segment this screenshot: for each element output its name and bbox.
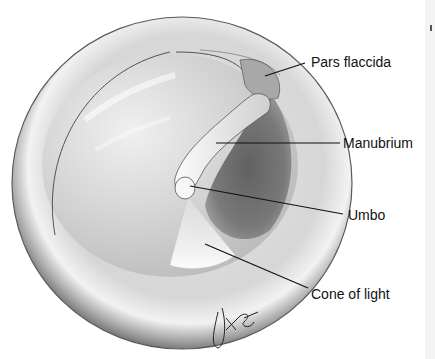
label-pars-flaccida: Pars flaccida [311,55,391,69]
umbo-shape [175,177,195,199]
label-umbo: Umbo [348,208,385,222]
label-cone-of-light: Cone of light [311,287,390,301]
label-manubrium: Manubrium [343,136,413,150]
